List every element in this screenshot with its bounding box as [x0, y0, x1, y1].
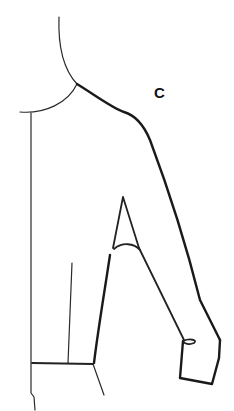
center-front-line: [31, 113, 35, 410]
dart-line: [68, 263, 72, 363]
side-seam-line: [94, 255, 110, 363]
back-neck-line: [59, 17, 77, 84]
front-neckline: [20, 84, 77, 112]
cuff-button-icon: [183, 340, 195, 345]
elbow-curve: [114, 244, 140, 250]
sleeve-diagram: [0, 0, 234, 411]
figure-label: C: [154, 84, 165, 101]
sleeve-inner-line: [139, 248, 184, 340]
cuff-outline: [180, 340, 220, 384]
underarm-triangle: [113, 197, 139, 248]
hip-line: [93, 364, 104, 395]
waistline: [32, 363, 93, 364]
shoulder-armhole-line: [77, 84, 220, 340]
